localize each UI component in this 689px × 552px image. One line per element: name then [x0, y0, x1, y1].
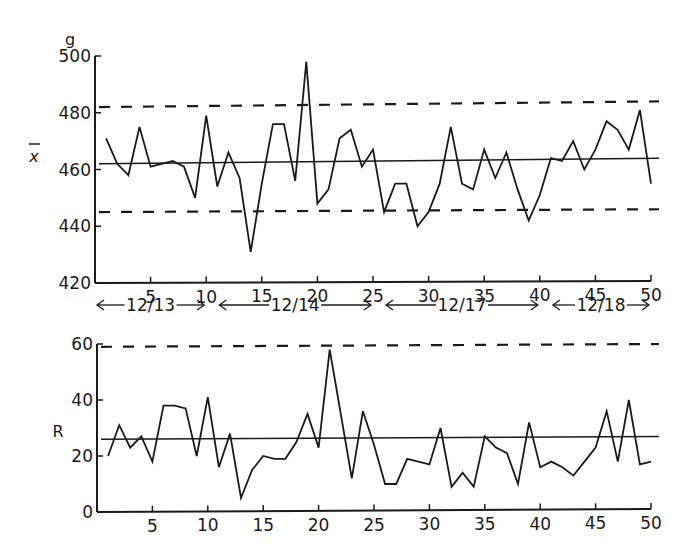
x-tick-label: 15 [251, 286, 273, 306]
y-tick-label: 0 [82, 502, 93, 522]
xbar-chart: 4204404604805005101520253035404550gx12/1… [28, 30, 662, 315]
y-axis-title-xbar: x [28, 147, 39, 166]
unit-label: g [65, 30, 75, 49]
control-line-lcl [99, 209, 659, 212]
y-tick-label: 420 [59, 273, 91, 293]
control-line-ucl [101, 344, 659, 347]
x-tick-label: 30 [418, 286, 440, 306]
series-line-r [108, 350, 651, 498]
series-line-xbar [106, 62, 651, 252]
control-charts: 4204404604805005101520253035404550gx12/1… [0, 0, 689, 552]
y-tick-label: 460 [59, 160, 91, 180]
x-tick-label: 10 [195, 287, 217, 307]
date-label: 12/13 [126, 295, 175, 315]
y-tick-label: 480 [59, 103, 91, 123]
x-tick-label: 15 [252, 515, 274, 535]
x-tick-label: 25 [363, 515, 385, 535]
date-label: 12/18 [576, 295, 625, 315]
control-line-cl [101, 436, 659, 439]
control-line-ucl [99, 101, 659, 107]
date-group-12-17: 12/17 [386, 295, 538, 315]
y-tick-label: 500 [59, 46, 91, 66]
r-chart: 02040605101520253035404550R [52, 334, 661, 536]
x-tick-label: 50 [640, 285, 662, 305]
x-tick-label: 40 [529, 285, 551, 305]
date-label: 12/17 [437, 295, 486, 315]
x-tick-label: 50 [640, 513, 662, 533]
x-tick-label: 25 [362, 286, 384, 306]
date-group-12-14: 12/14 [219, 295, 371, 315]
y-axis-title-r: R [52, 422, 63, 441]
date-group-12-18: 12/18 [553, 295, 649, 315]
x-tick-label: 5 [147, 516, 158, 536]
x-tick-label: 20 [308, 515, 330, 535]
date-label: 12/14 [271, 295, 320, 315]
x-tick-label: 30 [419, 514, 441, 534]
x-tick-label: 40 [529, 514, 551, 534]
y-tick-label: 20 [71, 446, 93, 466]
x-tick-label: 10 [197, 515, 219, 535]
x-tick-label: 45 [585, 513, 607, 533]
date-group-12-13: 12/13 [97, 295, 204, 315]
x-tick-label: 35 [474, 514, 496, 534]
y-tick-label: 60 [71, 334, 93, 354]
y-tick-label: 40 [71, 390, 93, 410]
control-line-cl [99, 158, 659, 164]
y-tick-label: 440 [59, 216, 91, 236]
